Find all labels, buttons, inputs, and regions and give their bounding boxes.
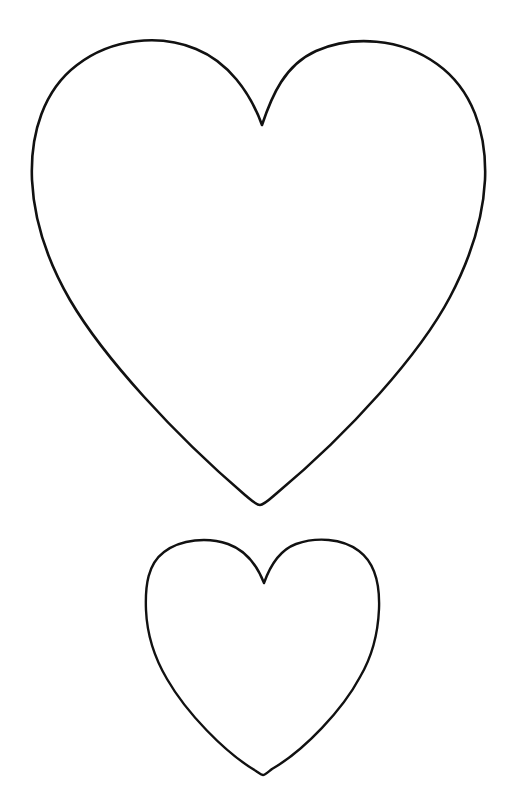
heart-shapes-canvas [0, 0, 506, 794]
page-background [0, 0, 506, 794]
heart-template-page: Heart Template [0, 0, 506, 794]
